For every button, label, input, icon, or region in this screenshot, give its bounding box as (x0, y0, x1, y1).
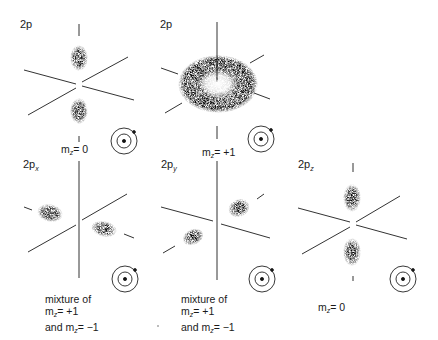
panel-title-2py: 2py (161, 158, 177, 172)
panel-2pz (298, 163, 416, 292)
caption-2pz: mz= 0 (318, 301, 345, 317)
orbital-figure (0, 0, 438, 340)
panel-title-2p-m+1: 2p (160, 18, 172, 30)
torus-density (178, 55, 258, 113)
atom-orbit-icon (111, 128, 137, 154)
panel-2py (161, 161, 275, 292)
panel-title-2px: 2px (23, 158, 39, 172)
caption-2py: mixture of mz= +1 and mz= −1 (181, 293, 235, 337)
panel-2p-m+1 (161, 22, 274, 152)
lobe-lower (70, 98, 88, 124)
caption-m+1: mz= +1 (202, 146, 235, 162)
caption-m0-top: mz= 0 (61, 143, 88, 159)
axes (24, 161, 134, 278)
lobe-right (90, 218, 119, 239)
caption-2px: mixture of mz= +1 and mz= −1 (45, 293, 99, 337)
atom-orbit-icon (249, 266, 275, 292)
panel-title-2p-m0: 2p (20, 18, 32, 30)
stray-dot (157, 325, 159, 327)
atom-orbit-icon (112, 266, 138, 292)
lobe-upper (70, 45, 88, 71)
panel-2p-m0 (24, 24, 137, 154)
panel-title-2pz: 2pz (298, 158, 314, 172)
atom-orbit-icon (248, 126, 274, 152)
axes (161, 161, 270, 280)
axes (24, 24, 134, 142)
atom-orbit-icon (390, 266, 416, 292)
lobe-upper-right (225, 195, 253, 221)
lobe-upper (343, 184, 361, 212)
lobe-lower (343, 238, 361, 266)
lobe-lower-left (180, 225, 207, 249)
panel-2px (24, 161, 138, 292)
lobe-left (35, 201, 64, 224)
